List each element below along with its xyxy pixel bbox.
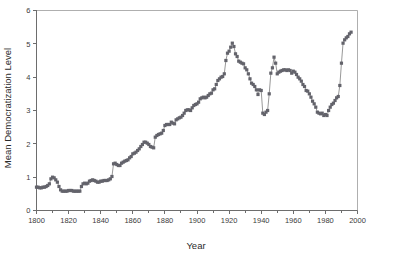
y-tick-label: 3 xyxy=(26,106,30,115)
data-point-marker xyxy=(173,122,176,125)
data-point-marker xyxy=(245,68,248,71)
data-point-marker xyxy=(197,101,200,104)
x-tick-label: 1980 xyxy=(317,216,334,225)
data-point-marker xyxy=(272,56,275,59)
data-point-marker xyxy=(224,59,227,62)
x-tick-label: 1820 xyxy=(60,216,77,225)
data-point-marker xyxy=(303,85,306,88)
y-tick-label: 0 xyxy=(26,206,30,215)
data-point-marker xyxy=(57,185,60,188)
x-axis-ticks xyxy=(37,211,358,215)
data-point-marker xyxy=(242,62,245,65)
data-point-marker xyxy=(78,190,81,193)
data-point-marker xyxy=(268,92,271,95)
data-point-marker xyxy=(337,95,340,98)
x-tick-label: 1860 xyxy=(124,216,141,225)
y-axis-ticks xyxy=(33,11,37,211)
data-series-group xyxy=(35,31,353,193)
data-point-marker xyxy=(223,72,226,75)
x-tick-label: 1800 xyxy=(28,216,45,225)
data-point-marker xyxy=(152,146,155,149)
data-point-marker xyxy=(215,83,218,86)
data-point-marker xyxy=(300,80,303,83)
data-point-marker xyxy=(228,50,231,53)
data-point-marker xyxy=(274,62,277,65)
x-tick-label: 1920 xyxy=(221,216,238,225)
chart-canvas: 1800182018401860188019001920194019601980… xyxy=(0,0,393,254)
data-point-marker xyxy=(338,84,341,87)
data-point-marker xyxy=(231,42,234,45)
data-point-marker xyxy=(110,175,113,178)
x-tick-label: 1900 xyxy=(189,216,206,225)
data-point-marker xyxy=(309,96,312,99)
data-point-marker xyxy=(48,182,51,185)
y-tick-label: 1 xyxy=(26,173,30,182)
democratization-chart-figure: 1800182018401860188019001920194019601980… xyxy=(0,0,393,254)
y-tick-label: 2 xyxy=(26,140,30,149)
data-point-marker xyxy=(314,106,317,109)
data-point-marker xyxy=(56,181,59,184)
data-point-marker xyxy=(269,72,272,75)
data-point-marker xyxy=(313,102,316,105)
data-point-marker xyxy=(162,129,165,132)
x-axis-title: Year xyxy=(186,240,205,251)
data-point-marker xyxy=(210,92,213,95)
x-tick-label: 1840 xyxy=(92,216,109,225)
y-axis-tick-labels: 0123456 xyxy=(26,6,30,215)
data-point-marker xyxy=(325,114,328,117)
data-point-marker xyxy=(349,31,352,34)
data-point-marker xyxy=(255,88,258,91)
y-tick-label: 4 xyxy=(26,73,30,82)
data-point-marker xyxy=(256,93,259,96)
y-tick-label: 5 xyxy=(26,40,30,49)
plot-border xyxy=(37,11,358,211)
data-point-marker xyxy=(248,77,251,80)
x-tick-label: 2000 xyxy=(349,216,366,225)
series-line xyxy=(37,32,352,191)
data-point-marker xyxy=(232,45,235,48)
plot-frame xyxy=(37,11,358,211)
data-point-marker xyxy=(247,72,250,75)
x-tick-label: 1960 xyxy=(285,216,302,225)
data-point-marker xyxy=(308,92,311,95)
data-point-marker xyxy=(260,89,263,92)
data-point-marker xyxy=(229,46,232,49)
data-point-marker xyxy=(266,109,269,112)
data-point-marker xyxy=(253,85,256,88)
x-tick-label: 1940 xyxy=(253,216,270,225)
data-point-marker xyxy=(271,66,274,69)
axis-spines xyxy=(37,11,358,211)
data-point-marker xyxy=(236,55,239,58)
data-point-marker xyxy=(327,109,330,112)
data-point-marker xyxy=(340,62,343,65)
y-axis-title: Mean Democratization Level xyxy=(2,48,13,168)
y-tick-label: 6 xyxy=(26,6,30,15)
data-point-marker xyxy=(213,87,216,90)
x-axis-tick-labels: 1800182018401860188019001920194019601980… xyxy=(28,216,366,225)
data-point-marker xyxy=(341,42,344,45)
x-tick-label: 1880 xyxy=(157,216,174,225)
